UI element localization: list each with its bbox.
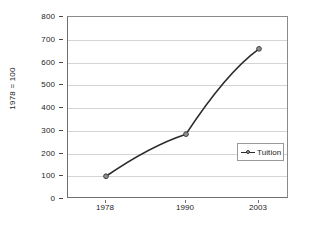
data-point-marker (104, 174, 109, 179)
y-tick-label: 300 (41, 125, 55, 134)
y-axis: 0100200300400500600700800 (0, 16, 63, 198)
y-tick-label: 500 (41, 80, 55, 89)
plot-area (67, 16, 288, 198)
x-tick-label: 1978 (96, 203, 114, 212)
y-tick-mark (59, 198, 63, 199)
series-tuition (68, 17, 289, 199)
x-tick-mark (258, 200, 259, 203)
x-tick-label: 2003 (249, 203, 267, 212)
y-tick-mark (59, 107, 63, 108)
x-tick-mark (185, 200, 186, 203)
y-tick-label: 800 (41, 12, 55, 21)
y-tick-mark (59, 175, 63, 176)
y-tick-mark (59, 153, 63, 154)
y-tick-label: 400 (41, 103, 55, 112)
y-tick-mark (59, 62, 63, 63)
x-axis: 197819902003 (67, 203, 288, 219)
x-tick-label: 1990 (176, 203, 194, 212)
x-tick-mark (105, 200, 106, 203)
y-tick-mark (59, 39, 63, 40)
legend-line-marker-icon (241, 148, 255, 157)
legend-item-tuition: Tuition (257, 148, 281, 157)
y-tick-label: 100 (41, 171, 55, 180)
y-tick-label: 0 (50, 194, 55, 203)
data-point-marker (184, 132, 189, 137)
y-tick-mark (59, 84, 63, 85)
y-tick-label: 600 (41, 57, 55, 66)
chart-legend: Tuition (237, 143, 284, 161)
y-tick-label: 700 (41, 34, 55, 43)
y-tick-label: 200 (41, 148, 55, 157)
y-tick-mark (59, 130, 63, 131)
tuition-index-line-chart: 1978 = 100 0100200300400500600700800 197… (0, 0, 310, 231)
data-point-marker (257, 46, 262, 51)
y-tick-mark (59, 16, 63, 17)
